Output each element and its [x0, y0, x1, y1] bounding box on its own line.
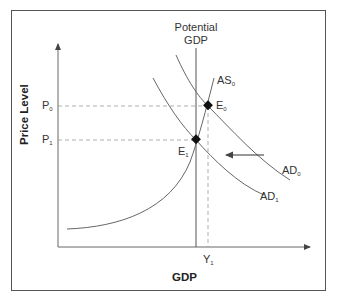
y1-sub: 1: [210, 260, 213, 266]
ad1-label: AD1: [260, 191, 279, 203]
ad0-label: AD0: [282, 165, 301, 177]
as0-label: AS0: [217, 75, 235, 87]
ad0-sub: 0: [297, 171, 300, 177]
y-axis-label: Price Level: [19, 84, 31, 145]
p1-label: P1: [42, 134, 53, 146]
ad0-curve: [176, 55, 290, 180]
p0-sub: 0: [49, 106, 52, 112]
p1-sub: 1: [49, 140, 52, 146]
e1-label: E1: [178, 146, 189, 158]
as0-sub: 0: [232, 81, 235, 87]
e0-label: E0: [216, 100, 227, 112]
x-axis-label: GDP: [172, 272, 197, 284]
y1-label: Y1: [203, 254, 214, 266]
e1-sub: 1: [185, 152, 188, 158]
title-line-1: Potential: [165, 21, 227, 34]
as0-main: AS: [217, 74, 232, 86]
ad1-curve: [153, 78, 264, 195]
p0-label: P0: [42, 100, 53, 112]
as0-curve: [67, 78, 214, 229]
title-line-2: GDP: [165, 34, 227, 47]
potential-gdp-title: Potential GDP: [165, 21, 227, 47]
ad1-sub: 1: [275, 197, 278, 203]
ad0-main: AD: [282, 164, 297, 176]
e0-sub: 0: [223, 106, 226, 112]
ad1-main: AD: [260, 190, 275, 202]
